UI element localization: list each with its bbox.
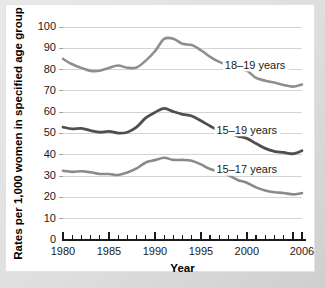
y-tick-label: 100 bbox=[38, 20, 56, 32]
series-label-3: 15–17 years bbox=[217, 163, 278, 175]
x-tick-label: 2006 bbox=[290, 245, 314, 257]
y-tick-label: 90 bbox=[44, 41, 56, 53]
x-axis-title: Year bbox=[170, 262, 195, 273]
y-tick-label: 80 bbox=[44, 63, 56, 75]
y-tick-label: 20 bbox=[44, 190, 56, 202]
y-tick-label: 10 bbox=[44, 212, 56, 224]
y-tick-label: 60 bbox=[44, 105, 56, 117]
line-chart: 0102030405060708090100 19801985199019952… bbox=[6, 5, 316, 273]
y-tick-label: 40 bbox=[44, 148, 56, 160]
chart-panel: 0102030405060708090100 19801985199019952… bbox=[5, 4, 315, 272]
x-tick-label: 1990 bbox=[143, 245, 167, 257]
x-tick-label: 1980 bbox=[51, 245, 75, 257]
y-axis-ticks: 0102030405060708090100 bbox=[38, 20, 63, 245]
y-tick-label: 0 bbox=[50, 233, 56, 245]
x-axis-ticks bbox=[63, 232, 302, 240]
y-tick-label: 50 bbox=[44, 126, 56, 138]
series-label-1: 18–19 years bbox=[225, 59, 286, 71]
figure-background: 0102030405060708090100 19801985199019952… bbox=[0, 0, 325, 288]
x-tick-label: 1995 bbox=[189, 245, 213, 257]
y-tick-label: 70 bbox=[44, 84, 56, 96]
y-axis-title: Rates per 1,000 women in specified age g… bbox=[12, 7, 24, 259]
series-label-2: 15–19 years bbox=[217, 124, 278, 136]
x-axis-tick-labels: 198019851990199520002006 bbox=[51, 245, 314, 257]
x-tick-label: 1985 bbox=[97, 245, 121, 257]
y-tick-label: 30 bbox=[44, 169, 56, 181]
x-tick-label: 2000 bbox=[235, 245, 259, 257]
